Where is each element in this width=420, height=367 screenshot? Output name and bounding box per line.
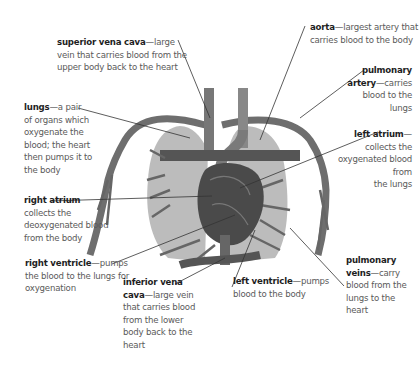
term-superior-vena-cava: superior vena cava: [57, 37, 146, 47]
label-left-atrium: left atrium— collects the oxygenated blo…: [326, 128, 412, 191]
label-superior-vena-cava: superior vena cava—large vein that carri…: [57, 36, 187, 74]
label-aorta: aorta—largest artery that carries blood …: [310, 21, 420, 46]
label-pulmonary-veins: pulmonary veins—carry blood from the lun…: [346, 254, 416, 317]
label-lungs: lungs—a pair of organs which oxygenate t…: [24, 101, 114, 177]
label-left-ventricle: left ventricle—pumps blood to the body: [233, 275, 343, 300]
term-lungs: lungs: [24, 102, 49, 112]
label-inferior-vena-cava: inferior vena cava—large vein that carri…: [123, 276, 203, 352]
svc-vessel: [204, 88, 214, 158]
label-right-atrium: right atrium collects the deoxygenated b…: [24, 194, 134, 244]
label-pulmonary-artery: pulmonary artery—carries blood to the lu…: [340, 64, 412, 114]
term-aorta: aorta: [310, 22, 335, 32]
pulmonary-band: [160, 150, 300, 161]
